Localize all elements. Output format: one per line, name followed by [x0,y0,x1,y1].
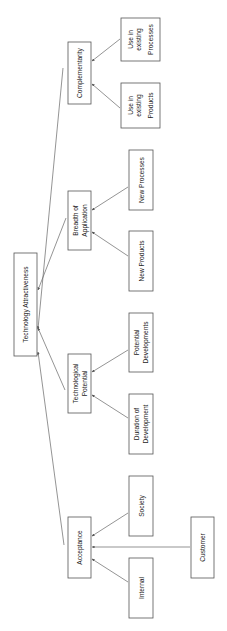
svg-text:Application: Application [81,204,89,237]
edge-useprocesses-complementarity [92,39,120,61]
edges [38,39,190,582]
svg-text:Duration of: Duration of [133,408,140,440]
node-technology-attractiveness[interactable]: Technology Attractiveness [14,253,37,356]
svg-text:Breadth of: Breadth of [72,205,79,236]
svg-text:Use in: Use in [127,30,134,49]
svg-text:existing: existing [135,94,143,117]
node-new-products[interactable]: New Products [129,231,153,291]
node-complementarity[interactable]: Complementarity [68,42,91,104]
svg-text:Internal: Internal [138,576,145,599]
svg-text:Development: Development [142,404,150,443]
node-use-in-existing-products[interactable]: Use in existing Products [121,83,160,128]
edge-internal-acceptance [92,559,128,582]
node-use-in-existing-processes[interactable]: Use in existing Processes [121,18,160,61]
node-technological-potential[interactable]: Technological Potential [68,354,91,413]
node-new-processes[interactable]: New Processes [129,150,153,210]
node-breadth-of-application[interactable]: Breadth of Application [68,191,91,250]
node-acceptance[interactable]: Acceptance [68,517,91,578]
svg-text:existing: existing [135,28,143,51]
node-customer[interactable]: Customer [191,517,214,578]
node-duration-of-development[interactable]: Duration of Development [129,394,153,454]
node-internal[interactable]: Internal [129,558,153,618]
svg-text:Technology Attractiveness: Technology Attractiveness [22,266,30,343]
edge-newprocesses-breadth [92,187,128,210]
svg-text:New Processes: New Processes [138,156,145,203]
svg-text:Acceptance: Acceptance [76,530,84,565]
svg-text:New Products: New Products [138,240,145,282]
svg-text:Potential: Potential [133,329,140,355]
edge-newproducts-breadth [92,232,128,256]
edge-acceptance-root [38,352,64,545]
edge-society-acceptance [92,513,128,536]
svg-text:Potential: Potential [81,370,88,396]
edge-useproducts-complementarity [92,84,120,108]
edge-potentialdev-techpotential [92,350,128,372]
svg-text:Use in: Use in [127,96,134,115]
node-potential-developments[interactable]: Potential Developments [129,313,153,372]
svg-text:Complementarity: Complementarity [76,47,84,98]
edge-breadth-root [38,218,66,290]
edge-duration-techpotential [92,395,128,418]
svg-text:Products: Products [147,92,154,119]
svg-text:Processes: Processes [147,23,154,54]
edge-complementarity-root [38,68,63,329]
svg-text:Developments: Developments [142,321,150,364]
svg-text:Customer: Customer [199,532,206,561]
node-society[interactable]: Society [129,476,153,536]
svg-text:Society: Society [138,494,146,516]
hierarchy-diagram: Technology Attractiveness Complementarit… [0,0,227,631]
svg-text:Technological: Technological [72,363,80,403]
